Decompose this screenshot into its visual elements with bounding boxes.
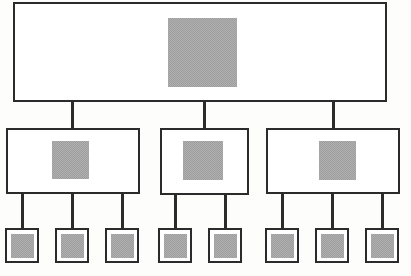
leaf-node-2-fill-square — [61, 234, 84, 258]
leaf-node-1-fill-square — [11, 234, 34, 258]
connector-branch-3-to-leaf-6 — [281, 192, 284, 229]
connector-branch-1-to-leaf-3 — [121, 192, 124, 229]
connector-branch-2-to-leaf-4 — [174, 193, 177, 229]
leaf-node-6-fill-square — [271, 234, 294, 258]
connector-branch-3-to-leaf-8 — [381, 192, 384, 229]
connector-branch-3-to-leaf-7 — [331, 192, 334, 229]
connector-branch-1-to-leaf-1 — [21, 192, 24, 229]
connector-branch-1-to-leaf-2 — [71, 192, 74, 229]
leaf-node-7-fill-square — [321, 234, 344, 258]
leaf-node-5-fill-square — [214, 234, 237, 258]
branch-node-3-fill-square — [319, 141, 356, 180]
branch-node-1-fill-square — [52, 141, 89, 179]
leaf-node-4-fill-square — [164, 234, 187, 258]
connector-root-to-branch-1 — [71, 100, 74, 129]
leaf-node-8-fill-square — [371, 234, 394, 258]
connector-branch-2-to-leaf-5 — [224, 193, 227, 229]
diagram-canvas — [0, 0, 411, 276]
branch-node-2-fill-square — [183, 141, 223, 180]
root-node-1-fill-square — [168, 18, 237, 87]
leaf-node-3-fill-square — [111, 234, 134, 258]
connector-root-to-branch-2 — [203, 100, 206, 129]
connector-root-to-branch-3 — [332, 100, 335, 129]
